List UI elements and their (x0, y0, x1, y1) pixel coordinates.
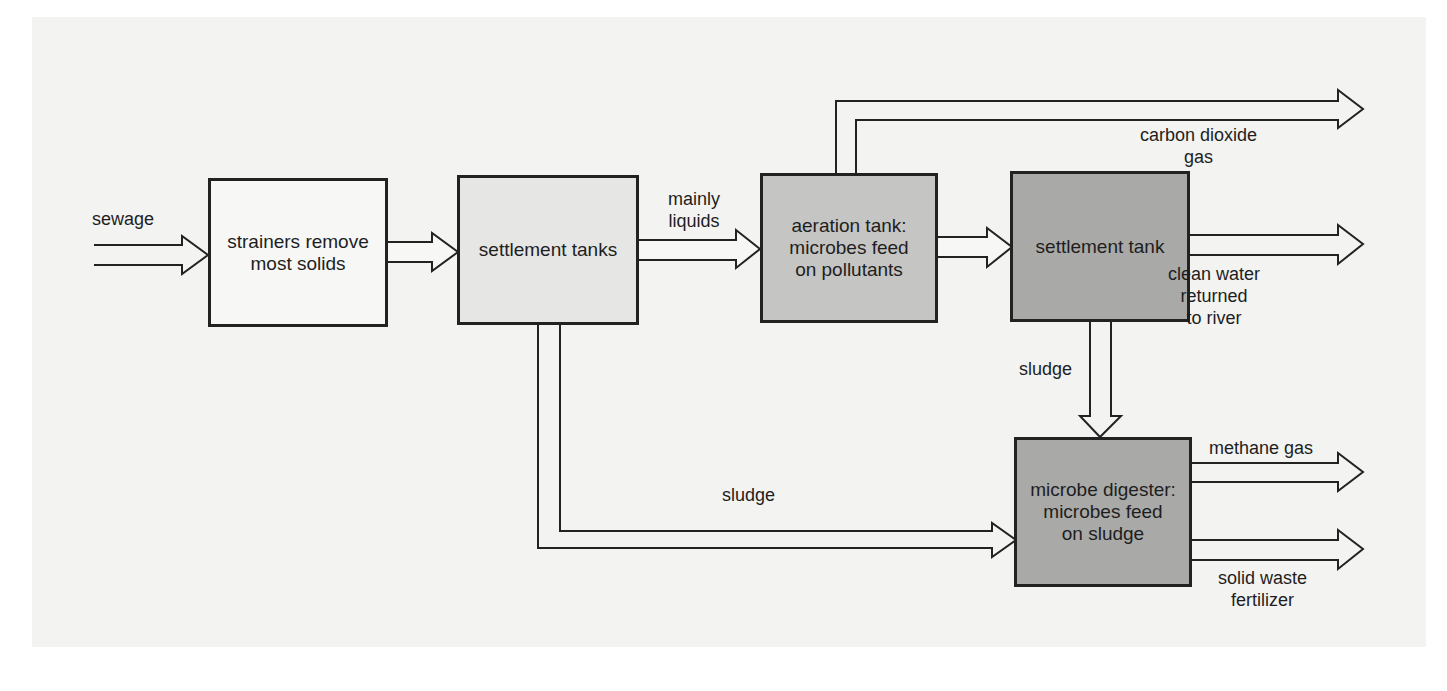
arrow-sewage (94, 236, 208, 274)
arrow-strainers-to-settlement (385, 233, 458, 271)
label-sludge-bottom: sludge (722, 484, 775, 506)
arrow-sludge-down (1080, 320, 1121, 437)
node-strainers-label: strainers remove most solids (227, 231, 369, 275)
label-sewage: sewage (92, 208, 154, 230)
node-strainers: strainers remove most solids (208, 178, 388, 327)
arrow-clean-water (1188, 225, 1363, 264)
label-methane: methane gas (1209, 437, 1313, 459)
label-co2: carbon dioxide gas (1140, 124, 1257, 168)
arrow-co2 (836, 90, 1363, 175)
label-solid-waste: solid waste fertilizer (1218, 567, 1307, 611)
node-settlement-tanks-label: settlement tanks (479, 239, 617, 261)
node-digester: microbe digester: microbes feed on sludg… (1014, 437, 1192, 587)
arrow-sludge (538, 324, 1016, 557)
arrow-aeration-to-settlement (935, 228, 1012, 267)
label-clean-water: clean water returned to river (1168, 263, 1260, 329)
arrow-solid-waste (1190, 530, 1363, 569)
node-aeration-tank-label: aeration tank: microbes feed on pollutan… (789, 215, 908, 281)
label-sludge-down: sludge (1019, 358, 1072, 380)
node-digester-label: microbe digester: microbes feed on sludg… (1030, 479, 1176, 545)
node-settlement-tank-label: settlement tank (1036, 236, 1165, 258)
arrow-mainly-liquids (637, 230, 760, 268)
label-mainly-liquids: mainly liquids (668, 188, 720, 232)
node-aeration-tank: aeration tank: microbes feed on pollutan… (760, 173, 938, 323)
arrow-sludge-bottom (418, 324, 1034, 559)
node-settlement-tanks: settlement tanks (457, 175, 639, 325)
node-settlement-tank: settlement tank (1010, 171, 1190, 322)
